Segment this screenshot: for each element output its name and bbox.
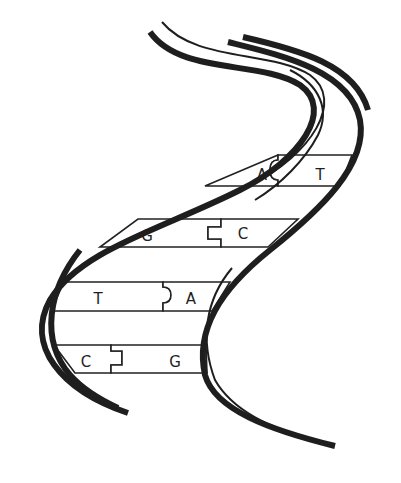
base-g-block-2 bbox=[111, 345, 207, 373]
base-label-a-2: A bbox=[186, 290, 197, 308]
base-c-block bbox=[208, 219, 298, 247]
base-label-g-2: G bbox=[169, 353, 181, 371]
base-pair-4: C G bbox=[54, 345, 207, 373]
dna-double-helix-diagram: A T G C T A C G bbox=[0, 0, 401, 483]
base-pair-1: A T bbox=[205, 155, 352, 186]
base-pair-3: T A bbox=[51, 282, 230, 311]
base-label-t: T bbox=[314, 166, 325, 184]
base-label-c: C bbox=[238, 225, 248, 243]
base-label-t-2: T bbox=[92, 290, 103, 308]
base-t-block-2 bbox=[51, 282, 171, 311]
base-label-c-2: C bbox=[81, 353, 91, 371]
strand-1-lower-inner bbox=[51, 250, 118, 408]
